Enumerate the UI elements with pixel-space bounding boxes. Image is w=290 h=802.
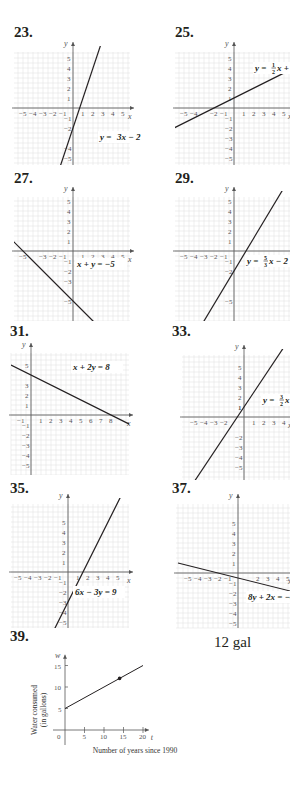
x-axis-label: x (287, 421, 290, 430)
svg-text:−2: −2 (49, 110, 57, 118)
y-axis-arrow-icon (236, 494, 240, 498)
svg-text:−5: −5 (190, 419, 198, 427)
y-axis-arrow-icon (66, 494, 70, 498)
y-axis-label: y (228, 492, 233, 500)
svg-text:5: 5 (228, 55, 232, 63)
equation-label: y = 3x − 2 (98, 131, 150, 143)
svg-text:x + 1: x + 1 (276, 63, 290, 73)
equation-label: 8y + 2x = −4 (246, 591, 290, 603)
y-axis-arrow-icon (232, 187, 236, 191)
svg-text:7: 7 (99, 417, 103, 425)
svg-text:4: 4 (67, 208, 71, 216)
y-axis-label: y (21, 340, 26, 349)
svg-text:3: 3 (264, 262, 267, 268)
svg-text:5: 5 (238, 364, 242, 372)
svg-text:−5: −5 (59, 619, 67, 627)
svg-text:5: 5 (228, 198, 232, 206)
svg-text:3: 3 (25, 382, 29, 390)
svg-text:−5: −5 (180, 110, 188, 118)
svg-text:6x − 3y = 9: 6x − 3y = 9 (75, 587, 117, 597)
y-axis-label: y (224, 184, 229, 193)
svg-text:−1: −1 (225, 115, 233, 123)
svg-text:1: 1 (25, 402, 29, 410)
svg-text:4: 4 (62, 529, 66, 537)
grid (14, 52, 130, 165)
graph-33: yx−5−4−3−212345543211−2−3−4−5y = 32x + 1 (168, 335, 290, 480)
svg-text:x + 2y = 8: x + 2y = 8 (72, 362, 110, 372)
svg-text:−4: −4 (190, 253, 198, 261)
svg-text:4: 4 (67, 65, 71, 73)
x-axis-arrow-icon (129, 570, 133, 574)
svg-text:−2: −2 (59, 589, 67, 597)
svg-text:2: 2 (67, 85, 71, 93)
y-axis-arrow-icon (232, 42, 236, 46)
svg-text:−2: −2 (22, 432, 30, 440)
svg-text:4: 4 (238, 374, 242, 382)
grid (11, 504, 129, 628)
svg-text:4: 4 (69, 417, 73, 425)
svg-text:3: 3 (272, 419, 276, 427)
svg-text:2: 2 (272, 69, 275, 75)
x-axis-label: x (126, 576, 131, 585)
svg-text:−1: −1 (225, 258, 233, 266)
svg-text:−5: −5 (225, 155, 233, 163)
svg-text:4: 4 (228, 65, 232, 73)
svg-text:−5: −5 (19, 110, 27, 118)
equation-label: y = 53x − 2 (245, 255, 290, 268)
equation-label: x + 2y = 8 (71, 361, 123, 373)
svg-text:4: 4 (228, 208, 232, 216)
y-axis-arrow-icon (29, 343, 33, 347)
svg-text:−2: −2 (44, 574, 52, 582)
svg-text:5: 5 (264, 255, 267, 261)
tick-labels: −5−4−3−212345543211−2−3−4−5 (190, 364, 290, 472)
svg-text:−2: −2 (210, 110, 218, 118)
answer-39: 12 gal (214, 634, 251, 651)
svg-text:−3: −3 (34, 574, 42, 582)
svg-text:4: 4 (272, 110, 276, 118)
svg-text:15: 15 (54, 663, 62, 671)
svg-text:3: 3 (67, 75, 71, 83)
axes (12, 42, 134, 165)
svg-text:1: 1 (252, 419, 256, 427)
svg-text:−4: −4 (235, 454, 243, 462)
svg-text:−5: −5 (235, 464, 243, 472)
svg-text:−5: −5 (180, 253, 188, 261)
svg-text:3: 3 (101, 110, 105, 118)
svg-text:4: 4 (276, 575, 280, 583)
svg-text:3: 3 (238, 384, 242, 392)
svg-text:2: 2 (25, 392, 29, 400)
svg-text:4: 4 (111, 110, 115, 118)
svg-text:2: 2 (252, 110, 256, 118)
svg-text:−5: −5 (184, 575, 192, 583)
svg-text:20: 20 (139, 733, 147, 741)
graph-29: yx−5−4−3−2−1234554321−1−2−5y = 53x − 2 (171, 183, 290, 321)
svg-text:0: 0 (57, 733, 61, 741)
x-axis-label: x (287, 112, 290, 121)
svg-text:8y + 2x = −4: 8y + 2x = −4 (248, 592, 290, 602)
svg-text:3: 3 (228, 218, 232, 226)
svg-text:y =: y = (254, 63, 266, 73)
svg-text:2: 2 (228, 228, 232, 236)
y-axis-label: y (234, 342, 239, 351)
graph-39-water-consumption: wt0510152051015Water consumed(in gallons… (25, 632, 210, 757)
svg-text:5: 5 (58, 706, 62, 714)
data-point (118, 677, 122, 681)
svg-text:2: 2 (86, 574, 90, 582)
svg-text:3: 3 (67, 218, 71, 226)
svg-text:−2: −2 (210, 253, 218, 261)
svg-text:−5: −5 (64, 155, 72, 163)
svg-text:x + 1: x + 1 (284, 395, 290, 405)
x-axis-arrow-icon (130, 249, 134, 253)
svg-text:−2: −2 (235, 434, 243, 442)
svg-text:−3: −3 (204, 575, 212, 583)
svg-text:3: 3 (262, 110, 266, 118)
svg-text:−1: −1 (64, 115, 72, 123)
svg-text:5: 5 (121, 110, 125, 118)
svg-text:2: 2 (256, 575, 260, 583)
svg-text:3: 3 (280, 394, 283, 400)
equation-label: x + y = −5 (75, 258, 127, 270)
svg-text:x + y = −5: x + y = −5 (76, 259, 115, 269)
svg-text:2: 2 (262, 419, 266, 427)
svg-text:5: 5 (25, 362, 29, 370)
svg-text:4: 4 (282, 419, 286, 427)
